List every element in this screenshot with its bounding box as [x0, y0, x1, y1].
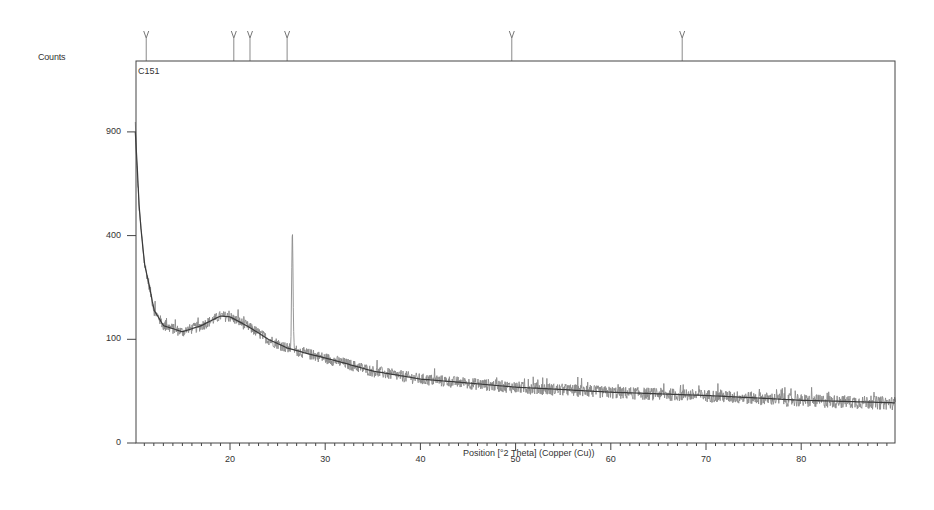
peak-marker-icon: [285, 31, 290, 38]
peak-marker-icon: [680, 31, 685, 38]
x-tick-label: 50: [504, 454, 528, 464]
x-tick-label: 80: [789, 454, 813, 464]
peak-marker-icon: [144, 31, 149, 38]
peak-marker-icon: [509, 31, 514, 38]
x-axis-label: Position [°2 Theta] (Copper (Cu)): [463, 448, 595, 458]
y-axis-ticks: [127, 132, 136, 443]
plot-area: [135, 122, 895, 410]
y-tick-label: 0: [91, 437, 121, 447]
panel-label: C151: [138, 66, 160, 76]
xrd-chart: [0, 0, 934, 510]
y-tick-label: 900: [91, 126, 121, 136]
x-tick-label: 40: [408, 454, 432, 464]
x-tick-label: 60: [599, 454, 623, 464]
observed-trace: [135, 122, 895, 410]
y-tick-label: 100: [91, 333, 121, 343]
x-tick-label: 70: [694, 454, 718, 464]
peak-markers: [144, 31, 685, 61]
background-fit-line: [135, 132, 895, 403]
y-axis-label: Counts: [38, 52, 65, 62]
y-tick-label: 400: [91, 230, 121, 240]
x-tick-label: 20: [218, 454, 242, 464]
peak-marker-icon: [231, 31, 236, 38]
x-tick-label: 30: [313, 454, 337, 464]
peak-marker-icon: [247, 31, 252, 38]
